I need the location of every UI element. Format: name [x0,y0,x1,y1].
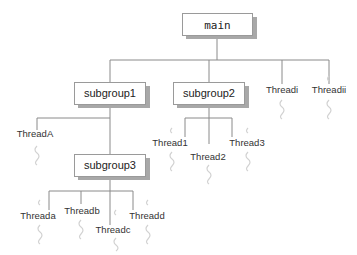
thread-label-threada: Threada [20,210,56,221]
squiggle-icon [35,146,39,165]
node-main: main [183,14,258,40]
connectors [37,35,329,225]
squiggle-icon [280,100,284,119]
thread-label-threadii: Threadii [312,84,346,95]
squiggle-icon [146,200,150,244]
thread-label-thread2: Thread2 [190,151,225,162]
subgroup3-label: subgroup3 [84,159,136,171]
thread-label-threadd: Threadd [129,210,164,221]
thread-label-threadi: Threadi [266,84,298,95]
thread-label-threadA: ThreadA [17,128,54,139]
thread-label-threadb: Threadb [64,205,99,216]
node-subgroup2: subgroup2 [174,83,250,109]
subgroup2-label: subgroup2 [183,87,235,99]
thread-label-threadc: Threadc [96,224,131,235]
squiggle-icon [170,128,174,171]
thread-label-thread3: Thread3 [229,137,264,148]
node-subgroup1: subgroup1 [75,83,151,109]
main-label: main [204,19,231,32]
squiggle-icon [79,220,83,239]
squiggle-icon [207,165,211,184]
squiggle-icon [38,200,42,244]
subgroup1-label: subgroup1 [84,87,136,99]
squiggle-icon [246,128,250,171]
thread-label-thread1: Thread1 [152,137,187,148]
thread-group-diagram: main subgroup1 subgroup2 subgroup3 Threa… [0,0,357,255]
node-subgroup3: subgroup3 [75,155,151,181]
